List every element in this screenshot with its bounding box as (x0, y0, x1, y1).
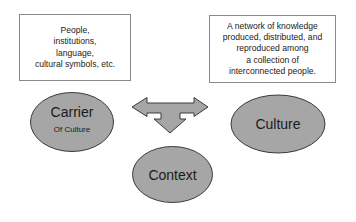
context-node: Context (133, 147, 213, 203)
three-way-arrow-icon (132, 98, 208, 134)
carrier-subtitle: Of Culture (54, 125, 91, 134)
diagram-canvas: Carrier Of Culture Culture Context (0, 0, 356, 222)
culture-node: Culture (231, 95, 325, 153)
carrier-node: Carrier Of Culture (31, 93, 114, 152)
carrier-ellipse (31, 93, 114, 152)
carrier-title: Carrier (51, 104, 94, 120)
culture-title: Culture (255, 116, 300, 132)
context-title: Context (148, 167, 196, 183)
